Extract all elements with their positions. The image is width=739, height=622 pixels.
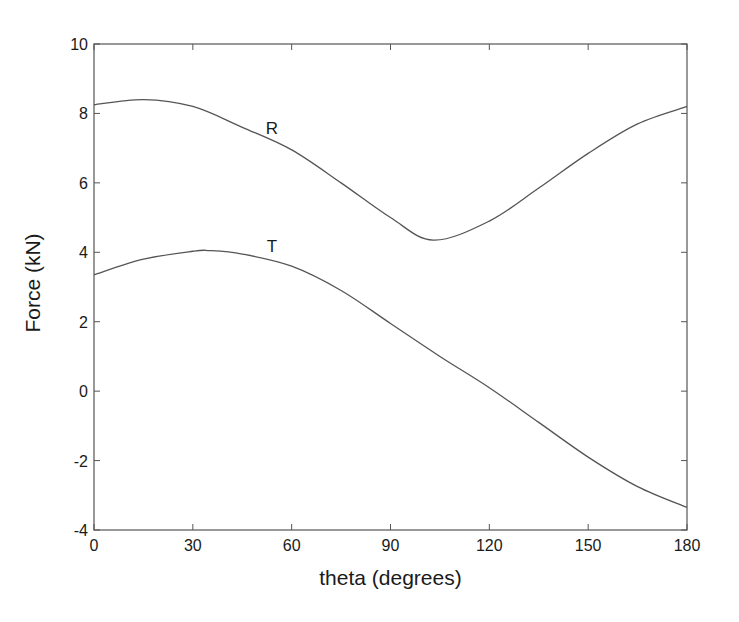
y-tick-label: 10 bbox=[70, 36, 88, 53]
y-tick-label: -2 bbox=[74, 453, 88, 470]
line-chart: 0306090120150180-4-20246810 RT theta (de… bbox=[0, 0, 739, 622]
y-tick-label: 8 bbox=[79, 105, 88, 122]
chart-background bbox=[0, 0, 739, 622]
x-tick-label: 180 bbox=[674, 537, 701, 554]
x-tick-label: 60 bbox=[283, 537, 301, 554]
x-tick-label: 150 bbox=[575, 537, 602, 554]
x-axis-label: theta (degrees) bbox=[319, 566, 461, 589]
x-tick-label: 30 bbox=[184, 537, 202, 554]
x-tick-label: 90 bbox=[382, 537, 400, 554]
series-label-R: R bbox=[266, 119, 278, 138]
y-tick-label: -4 bbox=[74, 522, 88, 539]
x-tick-label: 0 bbox=[90, 537, 99, 554]
x-tick-label: 120 bbox=[476, 537, 503, 554]
y-axis-label: Force (kN) bbox=[21, 233, 44, 332]
y-tick-label: 0 bbox=[79, 383, 88, 400]
y-tick-label: 2 bbox=[79, 314, 88, 331]
y-tick-label: 6 bbox=[79, 175, 88, 192]
y-tick-label: 4 bbox=[79, 244, 88, 261]
series-label-T: T bbox=[267, 237, 277, 256]
